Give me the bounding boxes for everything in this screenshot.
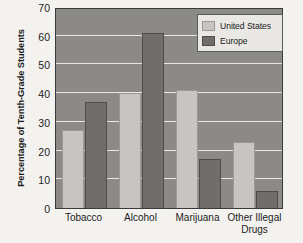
bar-europe <box>85 102 107 208</box>
legend-item-united-states: United States <box>202 18 278 33</box>
legend-item-europe: Europe <box>202 33 278 48</box>
y-axis-tick-label: 40 <box>24 89 50 99</box>
bar-europe <box>142 33 164 208</box>
chart-legend: United States Europe <box>197 14 283 52</box>
legend-label-united-states: United States <box>220 21 271 31</box>
bar-united-states <box>62 130 84 208</box>
bar-group <box>113 9 170 208</box>
x-axis-tick-label: Other Illegal Drugs <box>218 212 292 236</box>
y-axis-tick-label: 70 <box>24 3 50 13</box>
bar-united-states <box>176 90 198 208</box>
legend-swatch-europe <box>202 36 215 46</box>
legend-swatch-united-states <box>202 21 215 31</box>
bar-united-states <box>233 142 255 208</box>
y-axis-tick-labels: 010203040506070 <box>24 0 50 243</box>
y-axis-tick-label: 30 <box>24 118 50 128</box>
x-axis-tick-labels: TobaccoAlcoholMarijuanaOther Illegal Dru… <box>55 212 283 243</box>
bar-united-states <box>119 93 141 208</box>
bar-europe <box>256 191 278 208</box>
chart-figure: Percentage of Tenth-Grade Students 01020… <box>0 0 303 243</box>
bar-europe <box>199 159 221 208</box>
legend-label-europe: Europe <box>220 36 247 46</box>
y-axis-tick-label: 10 <box>24 175 50 185</box>
y-axis-tick-label: 50 <box>24 60 50 70</box>
y-axis-tick-label: 60 <box>24 32 50 42</box>
bar-group <box>56 9 113 208</box>
y-axis-tick-label: 20 <box>24 147 50 157</box>
